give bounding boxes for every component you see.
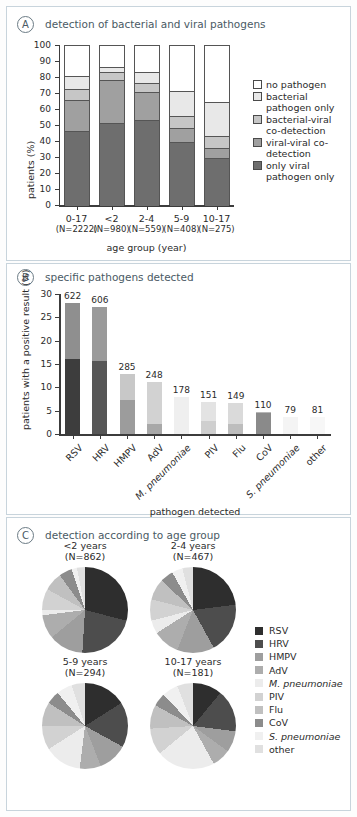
panel-a-bar-segment [205, 158, 229, 206]
panel-a-segment-divider [205, 158, 229, 159]
panel-b-x-tick [181, 435, 182, 439]
panel-a-legend-item: bacterial pathogen only [253, 91, 340, 113]
panel-b-bar [201, 402, 216, 434]
panel-a-bar-segment [100, 46, 124, 67]
panel-c-legend-swatch [255, 693, 263, 701]
panel-b-x-tick [209, 435, 210, 439]
panel-a-bar-segment [170, 116, 194, 127]
panel-b-bar-codetection [92, 307, 107, 361]
panel-c-legend-item: RSV [255, 624, 343, 637]
panel-a-segment-divider [135, 83, 159, 84]
panel-b-y-tick-label: 5 [28, 406, 52, 416]
panel-c-legend-label: HRV [269, 638, 289, 649]
panel-c: C detection according to age group <2 ye… [6, 517, 351, 811]
panel-c-legend-item: CoV [255, 716, 343, 729]
panel-a-segment-divider [65, 100, 89, 101]
panel-a-y-tick-label: 10 [27, 184, 51, 194]
panel-a-y-tick [55, 173, 59, 174]
panel-b-bar-codetection [174, 397, 189, 434]
panel-a-legend-swatch [253, 80, 262, 89]
panel-a-stacked-bar [99, 45, 125, 205]
panel-b-bar-value-label: 622 [64, 291, 81, 301]
panel-a-y-tick-label: 60 [27, 104, 51, 114]
panel-a-segment-divider [135, 120, 159, 121]
panel-b-y-tick [55, 387, 59, 388]
panel-a-segment-divider [100, 80, 124, 81]
panel-b-y-tick-label: 10 [28, 382, 52, 392]
panel-a-y-tick-label: 90 [27, 56, 51, 66]
panel-a-y-tick [55, 109, 59, 110]
panel-b-x-tick [317, 435, 318, 439]
panel-b-bar-single [147, 424, 162, 434]
panel-a-bar-segment [170, 142, 194, 206]
panel-a-legend-item: viral-viral co-detection [253, 137, 340, 159]
panel-c-legend-swatch [255, 719, 263, 727]
panel-c-pie-subtitle: (N=294) [65, 667, 106, 678]
panel-c-legend-swatch [255, 653, 263, 661]
panel-b-y-axis [59, 294, 61, 435]
panel-c-legend-item: Flu [255, 703, 343, 716]
panel-a-y-tick [55, 157, 59, 158]
panel-b-bar-codetection [147, 382, 162, 424]
panel-b-bar-value-label: 149 [227, 391, 244, 401]
panel-a-segment-divider [100, 123, 124, 124]
panel-a-bar-segment [205, 102, 229, 136]
panel-b-x-axis-label: pathogen detected [59, 506, 331, 517]
panel-b-x-tick [154, 435, 155, 439]
panel-a-stacked-bar [134, 45, 160, 205]
panel-a-x-tick [217, 206, 218, 210]
panel-c-pie-subtitle: (N=862) [65, 551, 106, 562]
panel-b-bar [120, 374, 135, 434]
panel-c-pie-title: 5-9 years [63, 656, 108, 667]
panel-a-y-tick [55, 45, 59, 46]
panel-c-legend-swatch [255, 732, 263, 740]
panel-b-y-tick [55, 411, 59, 412]
panel-c-legend-label: Flu [269, 704, 283, 715]
panel-a-y-tick-label: 30 [27, 152, 51, 162]
panel-c-legend-swatch [255, 666, 263, 674]
panel-a-bar-segment [205, 46, 229, 102]
panel-b-y-tick-label: 15 [28, 359, 52, 369]
panel-a-legend-item: bacterial-viral co-detection [253, 114, 340, 136]
panel-b-bar-value-label: 151 [200, 390, 217, 400]
panel-b-bar-single [256, 413, 271, 434]
panel-c-legend-label: PIV [269, 691, 284, 702]
panel-b-y-tick [55, 364, 59, 365]
panel-a-y-tick-label: 0 [27, 200, 51, 210]
panel-a-tag: A [17, 16, 34, 33]
panel-c-tag: C [17, 527, 34, 544]
panel-b-bar-codetection [201, 402, 216, 421]
panel-b-y-tick [55, 294, 59, 295]
panel-a-y-tick [55, 61, 59, 62]
panel-a-x-tick [182, 206, 183, 210]
panel-a-legend-label: bacterial-viral co-detection [266, 114, 340, 136]
panel-a-stacked-bar [64, 45, 90, 205]
panel-a-x-tick [147, 206, 148, 210]
panel-b-bar-codetection [120, 374, 135, 400]
panel-b-bar-value-label: 606 [91, 295, 108, 305]
panel-b-bar [92, 307, 107, 434]
panel-c-legend-swatch [255, 640, 263, 648]
panel-a-segment-divider [170, 128, 194, 129]
panel-c-legend-item: other [255, 743, 343, 756]
panel-a-y-tick-label: 100 [27, 40, 51, 50]
panel-b-y-tick-label: 30 [28, 289, 52, 299]
panel-b-y-tick-label: 20 [28, 336, 52, 346]
panel-a-segment-divider [170, 142, 194, 143]
panel-a-y-tick-label: 50 [27, 120, 51, 130]
panel-b-bar-codetection [65, 303, 80, 359]
panel-a-segment-divider [65, 89, 89, 90]
panel-b-bar [283, 417, 298, 434]
panel-c-legend-item: M. pneumoniae [255, 677, 343, 690]
panel-a-y-tick-label: 80 [27, 72, 51, 82]
panel-b-y-tick [55, 434, 59, 435]
panel-c-legend-swatch [255, 679, 263, 687]
panel-a-bar-segment [100, 72, 124, 80]
panel-a-legend-swatch [253, 115, 262, 124]
panel-a-x-tick-label: 10-17 [193, 213, 241, 224]
panel-a-y-tick-label: 40 [27, 136, 51, 146]
panel-b-x-tick [263, 435, 264, 439]
panel-a-segment-divider [205, 136, 229, 137]
panel-a-legend-label: only viral pathogen only [266, 160, 340, 182]
panel-a-bar-segment [100, 123, 124, 206]
